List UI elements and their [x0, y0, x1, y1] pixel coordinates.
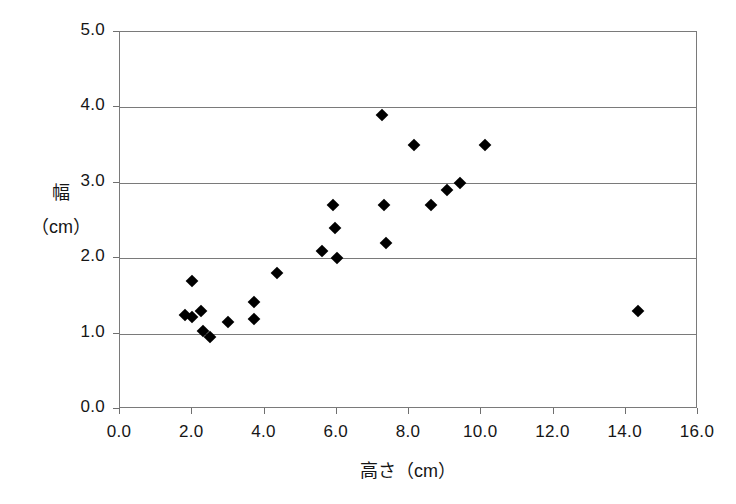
x-tick-mark — [191, 408, 192, 414]
data-point-marker — [186, 274, 199, 287]
x-tick-label: 10.0 — [450, 422, 510, 442]
y-tick-mark — [113, 333, 119, 334]
scatter-chart: 幅 （cm） 高さ（cm） 0.01.02.03.04.05.00.02.04.… — [0, 0, 736, 504]
y-tick-mark — [113, 31, 119, 32]
x-tick-mark — [119, 408, 120, 414]
x-tick-mark — [697, 408, 698, 414]
y-tick-label: 5.0 — [47, 20, 105, 40]
y-tick-mark — [113, 106, 119, 107]
x-tick-mark — [553, 408, 554, 414]
data-point-marker — [377, 199, 390, 212]
gridline-y — [120, 183, 696, 184]
x-tick-mark — [264, 408, 265, 414]
data-point-marker — [441, 184, 454, 197]
y-tick-label: 1.0 — [47, 322, 105, 342]
x-tick-label: 0.0 — [89, 422, 149, 442]
x-tick-label: 4.0 — [234, 422, 294, 442]
data-point-marker — [247, 296, 260, 309]
x-tick-mark — [625, 408, 626, 414]
data-point-marker — [316, 244, 329, 257]
x-tick-mark — [480, 408, 481, 414]
x-tick-label: 16.0 — [667, 422, 727, 442]
data-point-marker — [222, 316, 235, 329]
y-tick-mark — [113, 182, 119, 183]
data-point-marker — [379, 237, 392, 250]
data-point-marker — [329, 222, 342, 235]
data-point-marker — [271, 267, 284, 280]
plot-area — [119, 31, 697, 408]
x-axis-title: 高さ（cm） — [278, 456, 538, 482]
data-point-marker — [453, 176, 466, 189]
y-axis-title-line2: （cm） — [30, 210, 92, 244]
gridline-y — [120, 258, 696, 259]
data-point-marker — [408, 139, 421, 152]
data-point-marker — [327, 199, 340, 212]
x-tick-label: 12.0 — [523, 422, 583, 442]
data-point-marker — [376, 109, 389, 122]
data-point-marker — [478, 139, 491, 152]
data-point-marker — [330, 252, 343, 265]
x-tick-label: 14.0 — [595, 422, 655, 442]
y-tick-label: 3.0 — [47, 171, 105, 191]
y-tick-label: 0.0 — [47, 397, 105, 417]
x-tick-mark — [408, 408, 409, 414]
gridline-y — [120, 107, 696, 108]
x-tick-label: 6.0 — [306, 422, 366, 442]
x-tick-label: 2.0 — [161, 422, 221, 442]
x-tick-mark — [336, 408, 337, 414]
y-tick-label: 4.0 — [47, 95, 105, 115]
data-point-marker — [247, 312, 260, 325]
y-tick-mark — [113, 257, 119, 258]
x-tick-label: 8.0 — [378, 422, 438, 442]
y-tick-label: 2.0 — [47, 246, 105, 266]
data-point-marker — [424, 199, 437, 212]
data-point-marker — [632, 305, 645, 318]
